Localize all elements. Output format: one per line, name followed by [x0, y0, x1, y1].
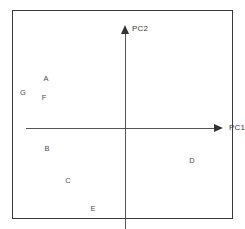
pc1-axis-line [26, 128, 218, 129]
data-point-a: A [43, 75, 48, 83]
pc1-axis-label: PC1 [229, 124, 245, 132]
data-point-d: D [189, 157, 194, 165]
pc2-axis-label: PC2 [132, 25, 148, 33]
data-point-g: G [20, 89, 26, 97]
data-point-e: E [90, 205, 95, 213]
data-point-b: B [44, 145, 49, 153]
pca-biplot: PC2 PC1 AGFBCDE [0, 0, 245, 229]
data-point-c: C [65, 177, 70, 185]
pc1-axis-arrow-icon [214, 124, 223, 132]
plot-frame: PC2 PC1 AGFBCDE [12, 10, 233, 219]
data-point-f: F [42, 94, 47, 102]
pc2-axis-arrow-icon [121, 25, 129, 34]
pc2-axis-line [125, 30, 126, 229]
